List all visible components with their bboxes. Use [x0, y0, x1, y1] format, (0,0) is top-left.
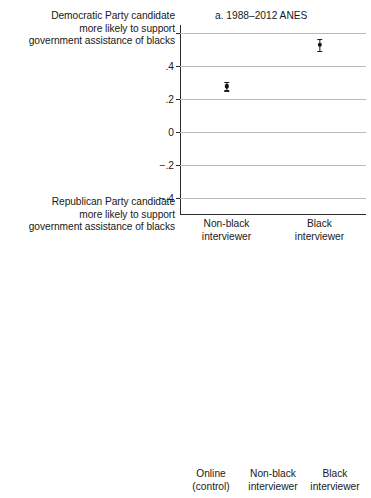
panel-a-title: a. 1988–2012 ANES: [215, 10, 307, 21]
y-tick-label: −.4: [160, 193, 174, 204]
anchor-line-3: government assistance of blacks: [0, 35, 175, 48]
x-category-label-1: Non-blackinterviewer: [202, 218, 251, 243]
category-label-line: interviewer: [248, 481, 297, 494]
category-label-line: Online: [192, 468, 229, 481]
panel-a-top-anchor-text: Democratic Party candidate more likely t…: [0, 10, 175, 48]
anchor-line-1: Democratic Party candidate: [0, 10, 175, 23]
error-bar-cap-upper: [317, 39, 323, 40]
anchor-line-3: government assistance of blacks: [0, 221, 175, 234]
x-category-label-3: Blackinterviewer: [310, 468, 359, 493]
gridline-0p6: [180, 33, 366, 34]
panel-a: Democratic Party candidate more likely t…: [0, 0, 371, 249]
category-label-line: Non-black: [248, 468, 297, 481]
y-tick: [176, 33, 180, 34]
anchor-line-2: more likely to support: [0, 23, 175, 36]
estimate-marker: [317, 43, 321, 47]
error-bar-cap-lower: [224, 90, 230, 91]
x-category-label-1: Online(control): [192, 468, 229, 493]
y-tick: [176, 99, 180, 100]
panel-a-plot-area: .4.20−.2−.4: [180, 25, 366, 215]
y-tick-label: −.2: [160, 160, 174, 171]
panel-a-x-axis: [180, 214, 366, 215]
y-tick-label: .2: [166, 94, 175, 105]
gridline-0p4: [180, 66, 366, 67]
y-tick-label: 0: [168, 127, 174, 138]
category-label-line: interviewer: [310, 481, 359, 494]
panel-a-bottom-anchor-text: Republican Party candidate more likely t…: [0, 196, 175, 234]
y-tick: [176, 165, 180, 166]
y-tick-label: .4: [166, 61, 175, 72]
anchor-line-1: Republican Party candidate: [0, 196, 175, 209]
error-bar-cap-lower: [317, 51, 323, 52]
y-tick: [176, 132, 180, 133]
x-category-label-2: Non-blackinterviewer: [248, 468, 297, 493]
gridline-0: [180, 132, 366, 133]
category-label-line: interviewer: [295, 231, 344, 244]
panel-a-y-axis: [180, 25, 181, 215]
x-category-label-2: Blackinterviewer: [295, 218, 344, 243]
anchor-line-2: more likely to support: [0, 209, 175, 222]
data-point-2: [313, 25, 327, 215]
gridline-neg0p4: [180, 198, 366, 199]
gridline-neg0p2: [180, 165, 366, 166]
panel-b: Democratic Party candidate more likely t…: [0, 249, 371, 498]
category-label-line: interviewer: [202, 231, 251, 244]
y-tick: [176, 198, 180, 199]
gridline-0p2: [180, 99, 366, 100]
category-label-line: (control): [192, 481, 229, 494]
category-label-line: Black: [295, 218, 344, 231]
category-label-line: Non-black: [202, 218, 251, 231]
y-tick: [176, 66, 180, 67]
data-point-1: [220, 25, 234, 215]
category-label-line: Black: [310, 468, 359, 481]
estimate-marker: [224, 84, 228, 88]
